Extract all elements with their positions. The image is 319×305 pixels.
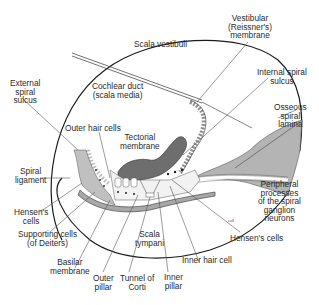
label-cochlear-duct-line2: (scala media) [92,91,143,100]
label-tunnel-of-corti: Tunnel of Corti [120,274,154,291]
label-hensens-cells-left: Hensen's cells [14,208,48,225]
label-external-spiral-sulcus: External spiral sulcus [10,79,40,105]
label-line: pillar [164,282,183,291]
label-line: membrane [228,31,272,40]
label-scala-tympani-line2: tympani [135,239,164,248]
label-cochlear-duct: Cochlear duct (scala media) [92,82,143,99]
label-tectorial-membrane: Tectorial membrane [120,133,160,150]
label-line: cells [14,217,48,226]
label-line: (of Deiters) [18,239,77,248]
label-scala-tympani: Scala tympani [135,230,164,247]
label-line: membrane [50,267,90,276]
svg-text:cell: cell [228,218,234,223]
label-line: Corti [120,283,154,292]
label-osseous-spiral-lamina: Osseous spiral lamina [274,103,307,129]
label-line: neurons [258,214,301,223]
label-scala-vestibuli: Scala vestibuli [134,40,187,49]
label-peripheral-processes: Peripheral processes of the spiral gangl… [258,180,301,223]
label-line: sulcus [10,96,40,105]
label-line: Inner hair cell [182,256,232,265]
label-outer-pillar: Outer pillar [93,274,114,291]
label-line: Outer hair cells [65,124,121,133]
label-spiral-ligament: Spiral ligament [15,167,46,184]
label-line: ligament [15,176,46,185]
label-hensens-cells-right: Hensen's cells [230,234,283,243]
label-vestibular-membrane: Vestibular (Reissner's) membrane [228,14,272,40]
label-line: sulcus [257,77,307,86]
label-basilar-membrane: Basilar membrane [50,258,90,275]
label-line: Hensen's cells [230,234,283,243]
label-line: membrane [120,142,160,151]
label-inner-hair-cell: Inner hair cell [182,256,232,265]
label-line: pillar [93,283,114,292]
label-inner-pillar: Inner pillar [164,273,183,290]
label-line: lamina [274,120,307,129]
label-outer-hair-cells: Outer hair cells [65,124,121,133]
label-supporting-cells: Supporting cells (of Deiters) [18,230,77,247]
label-internal-spiral-sulcus: Internal spiral sulcus [257,68,307,85]
spiral-limbus [180,102,204,172]
